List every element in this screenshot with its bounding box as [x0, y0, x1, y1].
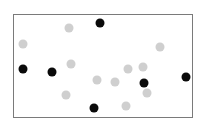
gray-dot: [111, 78, 120, 87]
gray-dot: [124, 65, 133, 74]
gray-dot: [93, 76, 102, 85]
black-dot: [19, 65, 28, 74]
gray-dot: [62, 91, 71, 100]
gray-dot: [65, 24, 74, 33]
black-dot: [48, 68, 57, 77]
gray-dot: [156, 43, 165, 52]
gray-dot: [139, 63, 148, 72]
black-dot: [140, 79, 149, 88]
black-dot: [96, 19, 105, 28]
gray-dot: [122, 102, 131, 111]
gray-dot: [67, 60, 76, 69]
black-dot: [90, 104, 99, 113]
dot-field-frame: [13, 14, 193, 118]
gray-dot: [19, 40, 28, 49]
gray-dot: [143, 89, 152, 98]
black-dot: [182, 73, 191, 82]
